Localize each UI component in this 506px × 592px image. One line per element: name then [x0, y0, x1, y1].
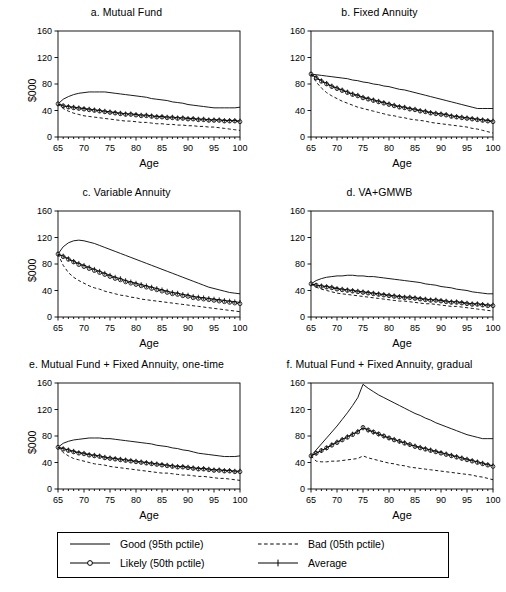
svg-text:70: 70	[79, 143, 89, 153]
svg-text:75: 75	[105, 323, 115, 333]
svg-text:160: 160	[290, 378, 305, 388]
svg-text:160: 160	[37, 206, 52, 216]
svg-text:100: 100	[485, 495, 500, 505]
svg-text:0: 0	[47, 132, 52, 142]
legend-item: Average	[256, 557, 347, 569]
svg-text:40: 40	[42, 106, 52, 116]
legend-label: Good (95th pctile)	[120, 538, 203, 550]
svg-text:95: 95	[462, 323, 472, 333]
svg-text:0: 0	[47, 484, 52, 494]
svg-text:80: 80	[295, 431, 305, 441]
x-axis-label: Age	[58, 509, 240, 521]
legend-item: Likely (50th pctile)	[68, 557, 205, 569]
plot-area: 0408012016065707580859095100	[253, 0, 506, 180]
svg-text:65: 65	[306, 323, 316, 333]
svg-text:75: 75	[105, 495, 115, 505]
svg-text:80: 80	[131, 495, 141, 505]
svg-text:65: 65	[53, 323, 63, 333]
svg-text:80: 80	[42, 431, 52, 441]
svg-text:0: 0	[300, 484, 305, 494]
svg-text:85: 85	[410, 495, 420, 505]
svg-text:80: 80	[384, 495, 394, 505]
solid-line-swatch	[68, 538, 114, 550]
chart-panel: a. Mutual Fund04080120160657075808590951…	[0, 0, 253, 180]
svg-text:90: 90	[436, 143, 446, 153]
svg-text:65: 65	[306, 495, 316, 505]
series-line	[311, 74, 493, 121]
svg-text:120: 120	[37, 233, 52, 243]
svg-text:65: 65	[306, 143, 316, 153]
chart-panel: d. VA+GMWB0408012016065707580859095100Ag…	[253, 180, 506, 352]
svg-text:80: 80	[42, 259, 52, 269]
plot-area: 0408012016065707580859095100	[253, 352, 506, 528]
svg-text:40: 40	[295, 106, 305, 116]
svg-text:100: 100	[485, 143, 500, 153]
svg-text:70: 70	[332, 143, 342, 153]
svg-text:160: 160	[37, 378, 52, 388]
svg-text:100: 100	[485, 323, 500, 333]
svg-text:95: 95	[462, 495, 472, 505]
svg-text:40: 40	[42, 458, 52, 468]
x-axis-label: Age	[58, 337, 240, 349]
svg-text:40: 40	[295, 286, 305, 296]
svg-text:120: 120	[290, 405, 305, 415]
series-line	[58, 447, 240, 471]
svg-text:40: 40	[42, 286, 52, 296]
y-axis-label: $000	[26, 79, 38, 102]
svg-text:90: 90	[436, 323, 446, 333]
y-axis-label: $000	[26, 431, 38, 454]
line-with-circle-marker-swatch	[68, 557, 114, 569]
svg-text:70: 70	[332, 323, 342, 333]
chart-panel: b. Fixed Annuity040801201606570758085909…	[253, 0, 506, 180]
svg-text:80: 80	[42, 79, 52, 89]
svg-text:95: 95	[209, 495, 219, 505]
svg-text:75: 75	[105, 143, 115, 153]
svg-text:90: 90	[436, 495, 446, 505]
svg-text:100: 100	[232, 143, 247, 153]
svg-text:160: 160	[37, 26, 52, 36]
svg-text:70: 70	[79, 323, 89, 333]
series-line	[58, 104, 240, 121]
svg-text:90: 90	[183, 143, 193, 153]
plot-area: 0408012016065707580859095100	[253, 180, 506, 352]
svg-text:80: 80	[131, 323, 141, 333]
line-with-plus-marker-swatch	[256, 557, 302, 569]
svg-text:65: 65	[53, 495, 63, 505]
svg-text:75: 75	[358, 495, 368, 505]
svg-text:120: 120	[37, 53, 52, 63]
svg-text:80: 80	[384, 143, 394, 153]
svg-text:75: 75	[358, 143, 368, 153]
svg-text:85: 85	[157, 143, 167, 153]
svg-text:90: 90	[183, 495, 193, 505]
svg-text:95: 95	[209, 323, 219, 333]
series-line	[58, 447, 240, 472]
svg-text:160: 160	[290, 26, 305, 36]
svg-text:85: 85	[157, 323, 167, 333]
x-axis-label: Age	[311, 509, 493, 521]
svg-text:0: 0	[300, 132, 305, 142]
series-line	[58, 254, 240, 304]
chart-panel: f. Mutual Fund + Fixed Annuity, gradual0…	[253, 352, 506, 528]
svg-text:100: 100	[232, 495, 247, 505]
y-axis-label: $000	[26, 259, 38, 282]
svg-text:40: 40	[295, 458, 305, 468]
series-line	[58, 254, 240, 302]
svg-text:85: 85	[157, 495, 167, 505]
legend-label: Bad (05th pctile)	[308, 538, 384, 550]
x-axis-label: Age	[311, 157, 493, 169]
dashed-line-swatch	[256, 538, 302, 550]
svg-text:85: 85	[410, 143, 420, 153]
legend-label: Average	[308, 557, 347, 569]
svg-text:160: 160	[290, 206, 305, 216]
chart-panel: e. Mutual Fund + Fixed Annuity, one-time…	[0, 352, 253, 528]
chart-panel: c. Variable Annuity040801201606570758085…	[0, 180, 253, 352]
series-line	[311, 74, 493, 108]
legend-label: Likely (50th pctile)	[120, 557, 205, 569]
svg-text:85: 85	[410, 323, 420, 333]
svg-text:0: 0	[300, 312, 305, 322]
svg-text:120: 120	[290, 53, 305, 63]
svg-text:70: 70	[332, 495, 342, 505]
series-line	[311, 74, 493, 122]
svg-text:80: 80	[131, 143, 141, 153]
chart-panel-grid: a. Mutual Fund04080120160657075808590951…	[0, 0, 506, 528]
